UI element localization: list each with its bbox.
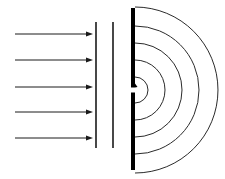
diffraction-diagram: [0, 0, 225, 179]
barrier-upper-segment: [131, 8, 135, 88]
diagram-canvas: [0, 0, 225, 179]
barrier-lower-segment: [131, 93, 135, 171]
